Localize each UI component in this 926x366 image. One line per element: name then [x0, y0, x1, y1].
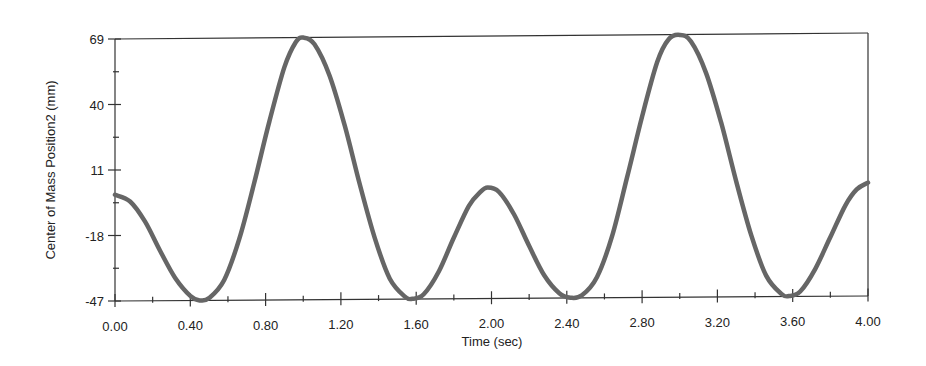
y-tick-label: 40	[90, 98, 104, 113]
plot-frame	[115, 33, 868, 301]
x-tick-label: 2.40	[554, 316, 579, 331]
x-tick-label: 1.60	[404, 317, 429, 332]
data-series-line	[115, 35, 868, 301]
line-chart: 694011-18-47 0.000.400.801.201.602.002.4…	[0, 0, 926, 366]
y-axis-ticks: 694011-18-47	[85, 32, 121, 309]
x-tick-label: 0.40	[178, 318, 203, 333]
y-tick-label: 69	[90, 32, 104, 47]
x-tick-label: 0.80	[253, 318, 278, 333]
x-tick-label: 3.60	[780, 314, 805, 329]
x-tick-label: 3.20	[705, 315, 730, 330]
x-tick-label: 2.80	[629, 315, 654, 330]
y-tick-label: 11	[91, 163, 105, 178]
x-tick-label: 2.00	[479, 316, 504, 331]
x-axis-title: Time (sec)	[462, 334, 523, 349]
x-tick-label: 4.00	[855, 314, 880, 329]
x-axis-ticks: 0.000.400.801.201.602.002.402.803.203.60…	[102, 289, 880, 335]
y-tick-label: -18	[85, 229, 104, 244]
y-tick-label: -47	[85, 294, 104, 309]
top-border-line	[115, 33, 868, 39]
y-axis-title: Center of Mass Position2 (mm)	[43, 80, 58, 259]
x-tick-label: 0.00	[102, 319, 127, 334]
x-tick-label: 1.20	[328, 317, 353, 332]
